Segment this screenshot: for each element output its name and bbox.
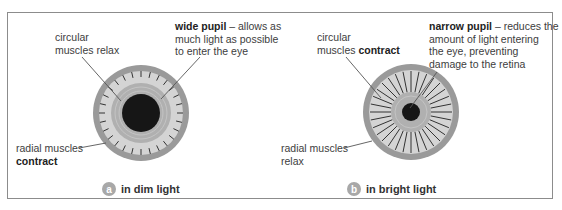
label-emphasis: narrow pupil	[429, 20, 492, 32]
badge-b: b	[347, 182, 361, 196]
label-line: radial muscles	[16, 142, 83, 155]
label-line: amount of light entering	[429, 33, 559, 46]
pupil-wide	[122, 94, 160, 132]
label-line: circular	[55, 31, 119, 44]
label-circular-relax: circular muscles relax	[55, 31, 119, 56]
label-wide-pupil: wide pupil – allows as much light as pos…	[175, 20, 281, 58]
label-emphasis: contract	[16, 155, 57, 167]
iris-bright-light	[363, 64, 459, 160]
label-line: relax	[281, 155, 348, 168]
caption-b: b in bright light	[347, 182, 436, 196]
label-emphasis: contract	[358, 44, 399, 56]
label-text: – reduces the	[492, 20, 559, 32]
label-line: much light as possible	[175, 33, 281, 46]
label-radial-contract: radial muscles contract	[16, 142, 83, 167]
badge-a: a	[102, 182, 116, 196]
label-emphasis: wide pupil	[175, 20, 226, 32]
label-narrow-pupil: narrow pupil – reduces the amount of lig…	[429, 20, 559, 70]
iris-dim-light	[93, 65, 189, 161]
label-line: to enter the eye	[175, 45, 281, 58]
caption-text: in bright light	[366, 183, 436, 195]
label-line: radial muscles	[281, 142, 348, 155]
caption-text: in dim light	[121, 183, 180, 195]
pupil-narrow	[402, 103, 420, 121]
label-text: – allows as	[226, 20, 281, 32]
label-radial-relax: radial muscles relax	[281, 142, 348, 167]
label-line: damage to the retina	[429, 58, 559, 71]
label-circular-contract: circular muscles contract	[317, 31, 400, 56]
label-text: muscles	[317, 44, 358, 56]
label-line: the eye, preventing	[429, 45, 559, 58]
caption-a: a in dim light	[102, 182, 180, 196]
label-line: circular	[317, 31, 400, 44]
label-line: muscles relax	[55, 44, 119, 57]
